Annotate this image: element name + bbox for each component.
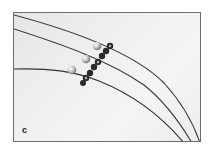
jewelry-wires-photo	[14, 13, 201, 142]
bead-top	[93, 42, 102, 51]
wire-top	[14, 15, 200, 142]
wire-middle	[14, 29, 192, 142]
wire-bottom	[14, 69, 184, 142]
panel-label: c	[22, 125, 27, 135]
bead-middle	[82, 55, 91, 64]
bead-bottom	[68, 66, 77, 75]
photo-frame: c	[13, 12, 201, 142]
